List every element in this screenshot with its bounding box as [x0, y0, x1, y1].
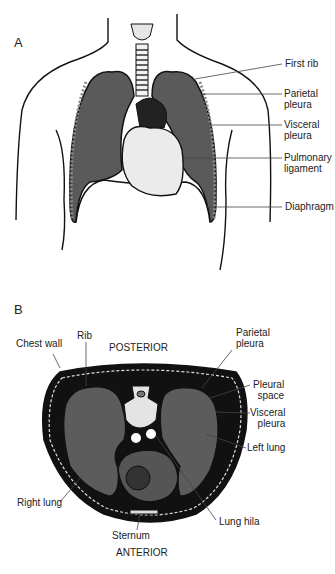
label-pleural-space-line1: Pleural	[253, 379, 284, 390]
panel-b-letter: B	[14, 302, 23, 317]
label-pleural-space-line2: space	[253, 390, 284, 401]
label-visceral-pleura-line2: pleura	[284, 130, 319, 141]
label-pulmonary-ligament-line1: Pulmonary	[284, 152, 332, 163]
orientation-posterior: POSTERIOR	[109, 342, 168, 353]
label-left-lung: Left lung	[247, 442, 285, 453]
panel-a-letter: A	[14, 35, 23, 50]
label-diaphragm: Diaphragm	[285, 201, 334, 212]
orientation-anterior: ANTERIOR	[116, 547, 168, 558]
label-pulmonary-ligament: Pulmonaryligament	[284, 152, 332, 174]
label-pulmonary-ligament-line2: ligament	[284, 163, 332, 174]
label-diaphragm-text: Diaphragm	[285, 201, 334, 212]
label-visceral-pleura-line1: Visceral	[284, 119, 319, 130]
label-pleural-space: Pleuralspace	[253, 379, 284, 401]
panel-a-frontal-view: A First rib Parietalpleura Visceralpleur…	[0, 0, 335, 290]
label-right-lung: Right lung	[17, 497, 62, 508]
label-lung-hila: Lung hila	[219, 516, 260, 527]
frontal-thorax-illustration	[0, 0, 335, 290]
label-first-rib: First rib	[285, 58, 318, 69]
label-parietal-pleura-line2: pleura	[284, 99, 318, 110]
label-parietal-pleura-b-line2: pleura	[236, 338, 270, 349]
label-visceral-pleura: Visceralpleura	[284, 119, 319, 141]
label-parietal-pleura: Parietalpleura	[284, 88, 318, 110]
label-visceral-pleura-b-line1: Visceral	[250, 407, 285, 418]
label-visceral-pleura-b-line2: pleura	[250, 418, 285, 429]
label-chest-wall: Chest wall	[16, 338, 62, 349]
cross-section-illustration	[0, 290, 335, 574]
label-visceral-pleura-b: Visceralpleura	[250, 407, 285, 429]
label-sternum: Sternum	[112, 530, 150, 541]
label-rib: Rib	[77, 330, 92, 341]
label-parietal-pleura-b-line1: Parietal	[236, 327, 270, 338]
label-first-rib-text: First rib	[285, 58, 318, 69]
label-parietal-pleura-line1: Parietal	[284, 88, 318, 99]
panel-b-cross-section: B POSTERIOR ANTERIOR Chest wall Rib Pari…	[0, 290, 335, 574]
sternum-shape	[130, 510, 158, 514]
trachea	[131, 24, 153, 96]
label-parietal-pleura-b: Parietalpleura	[236, 327, 270, 349]
